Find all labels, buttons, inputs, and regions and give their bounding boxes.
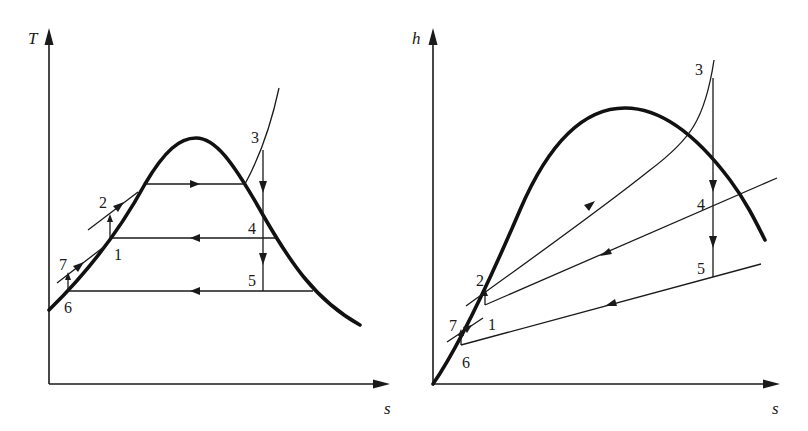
ts-saturation-dome: [49, 138, 360, 325]
hs-y-axis-label: h: [412, 29, 421, 48]
hs-high-pressure-isobar: [466, 60, 714, 306]
ts-arrow-right-icon: [190, 180, 200, 188]
ts-y-axis-label: T: [28, 29, 39, 48]
hs-arrow-icon: [584, 201, 595, 211]
hs-point-5-label: 5: [697, 260, 705, 277]
ts-y-axis-arrow-icon: [45, 28, 54, 45]
ts-point-5-label: 5: [248, 272, 256, 289]
hs-point-3-label: 3: [695, 61, 703, 78]
hs-arrow-left-icon: [600, 248, 612, 256]
ts-point-7-label: 7: [59, 256, 67, 273]
ts-arrow-left-icon: [190, 287, 200, 295]
hs-point-4-label: 4: [697, 196, 705, 213]
ts-arrow-icon: [73, 262, 84, 272]
ts-arrow-left-icon: [190, 234, 200, 242]
hs-x-axis-arrow-icon: [763, 380, 780, 389]
hs-y-axis-arrow-icon: [429, 28, 438, 45]
hs-diagram: h s 1 2 3 4 5 6 7: [412, 28, 780, 418]
ts-point-4-label: 4: [248, 220, 256, 237]
ts-point-3-label: 3: [251, 129, 259, 146]
ts-diagram: T s 1 2 3 4 5 6 7: [28, 28, 391, 418]
hs-x-axis-label: s: [772, 399, 779, 418]
ts-arrow-down-icon: [259, 181, 267, 193]
ts-x-axis-label: s: [384, 399, 391, 418]
hs-arrow-down-icon: [709, 236, 717, 248]
hs-point-7-label: 7: [449, 317, 457, 334]
hs-point-2-label: 2: [476, 272, 484, 289]
hs-mid-pressure-isobar: [485, 178, 777, 305]
ts-point-2-label: 2: [99, 194, 107, 211]
hs-point-1-label: 1: [488, 316, 496, 333]
hs-saturation-dome: [433, 108, 765, 384]
hs-arrow-down-icon: [709, 180, 717, 192]
ts-point-6-label: 6: [64, 299, 72, 316]
ts-arrow-down-icon: [259, 253, 267, 265]
figure-canvas: T s 1 2 3 4 5 6 7: [0, 0, 808, 431]
ts-point-1-label: 1: [114, 246, 122, 263]
hs-point-6-label: 6: [462, 354, 470, 371]
ts-x-axis-arrow-icon: [373, 380, 390, 389]
hs-arrow-left-icon: [605, 299, 617, 306]
